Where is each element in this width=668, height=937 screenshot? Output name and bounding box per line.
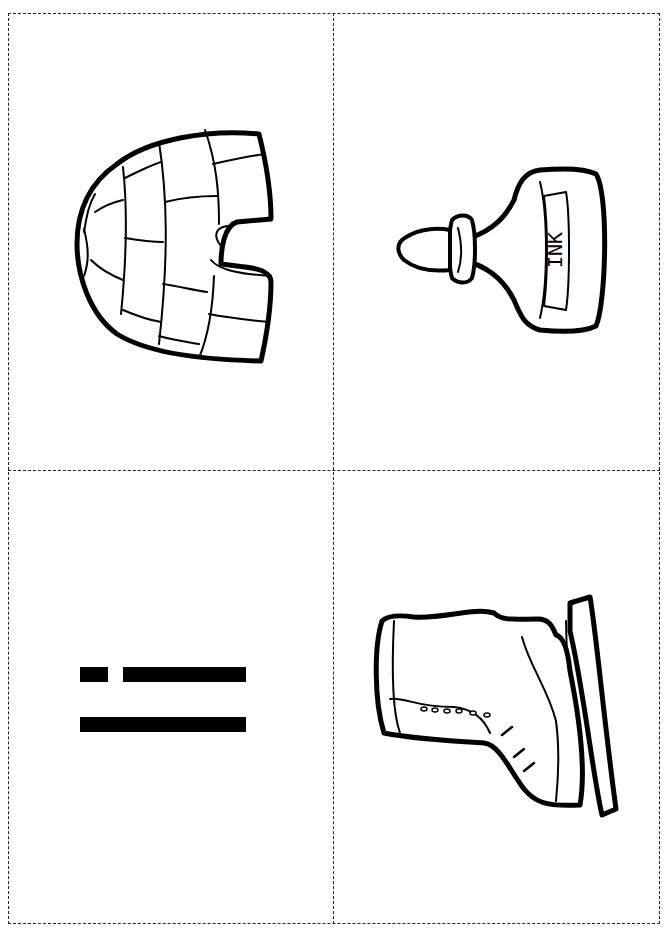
ink-label-text: INK — [543, 232, 567, 268]
underline-bar — [80, 717, 246, 732]
card-igloo — [9, 14, 333, 470]
letter-i-dot — [80, 667, 108, 682]
igloo-icon — [9, 14, 333, 470]
card-letter-i — [9, 471, 333, 923]
ink-bottle-icon: INK — [334, 14, 660, 470]
card-ink-bottle: INK — [334, 14, 660, 470]
letter-i-stem — [123, 667, 246, 682]
ice-skate-icon — [334, 471, 660, 923]
card-ice-skate — [334, 471, 660, 923]
